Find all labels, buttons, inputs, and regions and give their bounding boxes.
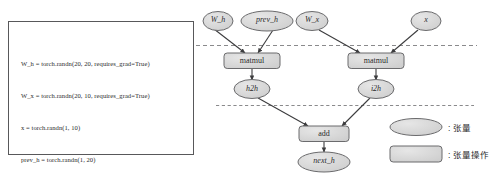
- tensor-node-wh[interactable]: [203, 12, 233, 31]
- code-line: prev_h = torch.randn(1, 20): [21, 155, 189, 166]
- legend-tensor-symbol: [390, 119, 442, 136]
- edge-prevh-to-matmul-left: [258, 30, 273, 53]
- code-line: W_x = torch.randn(20, 10, requires_grad=…: [21, 91, 189, 102]
- tensor-node-prev-h[interactable]: [241, 11, 293, 31]
- code-line: x = torch.randn(1, 10): [21, 123, 189, 134]
- edge-i2h-to-add: [342, 98, 370, 126]
- code-panel: W_h = torch.randn(20, 20, requires_grad=…: [8, 21, 194, 155]
- legend-operation-symbol: [390, 146, 442, 162]
- op-node-add[interactable]: [299, 126, 349, 142]
- tensor-node-h2h[interactable]: [234, 80, 270, 99]
- edge-x-to-matmul-right: [391, 30, 418, 53]
- tensor-node-x[interactable]: [411, 12, 441, 31]
- op-node-matmul-left[interactable]: [224, 53, 280, 69]
- edge-h2h-to-add: [258, 98, 308, 126]
- edge-wx-to-matmul-right: [319, 30, 360, 53]
- computation-graph: W_h prev_h W_x x matmul matmul h2h i2h a…: [196, 0, 492, 176]
- op-node-matmul-right[interactable]: [348, 53, 404, 69]
- edge-wh-to-matmul-left: [214, 29, 245, 53]
- code-lines: W_h = torch.randn(20, 20, requires_grad=…: [21, 38, 189, 176]
- tensor-node-i2h[interactable]: [358, 80, 394, 99]
- tensor-node-wx[interactable]: [296, 12, 328, 31]
- figure-root: W_h = torch.randn(20, 20, requires_grad=…: [0, 0, 492, 176]
- legend-operation-label: : 张量操作: [448, 148, 489, 160]
- tensor-node-next-h[interactable]: [298, 152, 350, 172]
- code-line: W_h = torch.randn(20, 20, requires_grad=…: [21, 59, 189, 70]
- legend-tensor-label: : 张量: [448, 121, 471, 133]
